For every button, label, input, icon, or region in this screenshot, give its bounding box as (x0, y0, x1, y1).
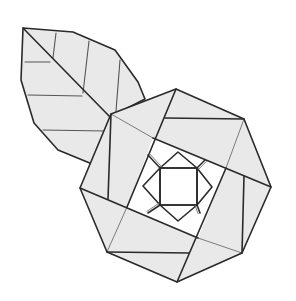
rose-petal-edge (107, 252, 189, 253)
rose (80, 89, 271, 282)
origami-rose-illustration (0, 0, 296, 301)
rose-petal-edge (165, 118, 244, 119)
